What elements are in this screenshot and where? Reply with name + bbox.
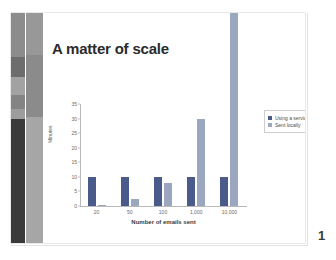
strip-band	[11, 77, 25, 95]
y-axis-tick-label: 10	[71, 174, 77, 180]
sidebar-strip-inner	[26, 13, 43, 243]
y-axis-tick-label: 30	[71, 116, 77, 122]
y-axis-tick-mark	[78, 118, 80, 119]
y-axis-tick-mark	[78, 104, 80, 105]
bar-sent-locally-50	[131, 199, 139, 206]
bar-using-a-service-100	[154, 177, 162, 206]
legend-item[interactable]: Sent locally	[268, 122, 305, 128]
legend-item-label: Using a service	[275, 115, 305, 121]
bar-sent-locally-1000	[197, 119, 205, 206]
bar-using-a-service-20	[88, 177, 96, 206]
bar-using-a-service-1000	[187, 177, 195, 206]
y-axis-tick-mark	[78, 133, 80, 134]
y-axis-title: Minutes	[47, 125, 53, 143]
bar-sent-locally-20	[98, 205, 106, 206]
x-axis-title: Number of emails sent	[80, 219, 247, 225]
page-title: A matter of scale	[52, 40, 169, 57]
plot-area: 05101520253035	[80, 104, 246, 206]
y-axis-tick-mark	[78, 206, 80, 207]
legend-item[interactable]: Using a service	[268, 115, 305, 121]
x-axis-tick-label: 50	[127, 209, 133, 215]
bar-using-a-service-10000	[220, 177, 228, 206]
legend-swatch-icon	[268, 116, 272, 120]
x-axis-tick-label: 1,000	[190, 209, 203, 215]
x-axis-tick-label: 100	[159, 209, 167, 215]
y-axis-tick-label: 0	[74, 203, 77, 209]
strip-band	[11, 95, 25, 109]
y-axis-tick-label: 35	[71, 101, 77, 107]
x-axis-line	[80, 206, 247, 207]
y-axis-tick-label: 20	[71, 145, 77, 151]
y-axis-tick-label: 15	[71, 159, 77, 165]
x-axis-tick-label: 20	[94, 209, 100, 215]
y-axis-tick-mark	[78, 162, 80, 163]
strip-segment	[26, 13, 43, 55]
x-axis-tick-label: 10,000	[222, 209, 237, 215]
bar-using-a-service-50	[121, 177, 129, 206]
sidebar-strip-outer	[11, 13, 25, 243]
y-axis-tick-label: 5	[74, 188, 77, 194]
strip-segment	[26, 117, 43, 243]
legend-swatch-icon	[268, 123, 272, 127]
page-number: 1	[318, 228, 325, 243]
bar-sent-locally-100	[164, 183, 172, 206]
bar-sent-locally-10000	[230, 104, 238, 206]
chart-legend[interactable]: Using a serviceSent locally	[264, 110, 305, 133]
y-axis-tick-mark	[78, 176, 80, 177]
y-axis-tick-mark	[78, 147, 80, 148]
y-axis-tick-mark	[78, 191, 80, 192]
strip-band	[11, 13, 25, 57]
y-axis-tick-label: 25	[71, 130, 77, 136]
presentation-slide[interactable]: A matter of scale Minutes 05101520253035…	[11, 13, 305, 243]
strip-segment	[26, 55, 43, 117]
strip-band	[11, 109, 25, 119]
strip-band	[11, 119, 25, 243]
strip-band	[11, 57, 25, 77]
legend-item-label: Sent locally	[275, 122, 301, 128]
